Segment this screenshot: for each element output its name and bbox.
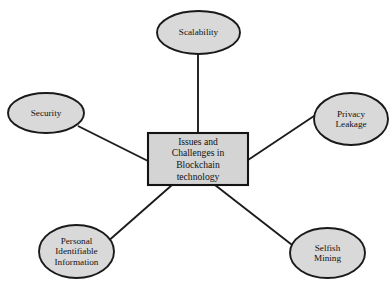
node-shape-selfish-mining[interactable] — [290, 228, 365, 278]
node-shape-scalability[interactable] — [157, 11, 240, 54]
connector-center-to-personal-identifiable-information — [106, 185, 172, 243]
node-shape-center[interactable] — [148, 133, 248, 185]
connector-center-to-privacy-leakage — [248, 112, 320, 160]
node-shape-security[interactable] — [8, 93, 84, 133]
blockchain-challenges-diagram: Scalability Security Privacy Leakage Per… — [0, 0, 390, 284]
node-shapes — [8, 11, 388, 278]
connector-center-to-selfish-mining — [215, 185, 296, 248]
diagram-canvas — [0, 0, 390, 284]
node-shape-personal-identifiable-information[interactable] — [39, 225, 114, 278]
node-shape-privacy-leakage[interactable] — [314, 93, 388, 145]
connector-center-to-security — [78, 126, 148, 161]
